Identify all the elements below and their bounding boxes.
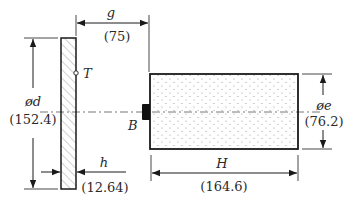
dimension-H-symbol: H [215, 156, 228, 171]
dimension-h-value: (12.64) [81, 180, 128, 195]
diagram-canvas: T B g (75) ød (152.4) h (12.64) H (164.6… [0, 0, 354, 207]
plate [61, 38, 78, 189]
dimension-H-value: (164.6) [200, 179, 247, 194]
dimension-e-symbol: øe [315, 98, 332, 113]
dimension-h-symbol: h [100, 155, 108, 170]
dimension-g-symbol: g [107, 5, 115, 20]
dimension-d-symbol: ød [24, 94, 41, 109]
target-block-label: B [127, 118, 138, 133]
target-block-b [142, 104, 150, 120]
dimension-d-value: (152.4) [9, 112, 56, 127]
plate-marker-label: T [83, 66, 93, 81]
target-cylinder [142, 74, 298, 149]
dimension-e-value: (76.2) [304, 114, 343, 129]
dimension-g-value: (75) [104, 29, 131, 44]
plate-marker-t [74, 71, 78, 75]
